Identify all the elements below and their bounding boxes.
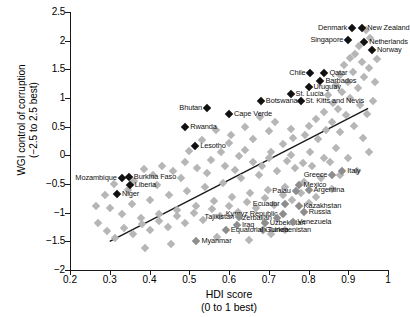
data-point-label: Greece — [304, 171, 328, 179]
data-point-label: Mozambique — [75, 174, 116, 182]
data-point-label: Palau — [272, 187, 290, 195]
plot-area: DenmarkNew ZealandSingaporeNetherlandsNo… — [70, 12, 388, 270]
data-point-label: Norway — [377, 46, 401, 54]
x-tick-label: 0.6 — [214, 274, 244, 285]
data-point-label: Equatorial Guinea — [231, 226, 288, 234]
y-axis-title-line1: WGI control of corruption — [16, 40, 28, 200]
x-tick-label: 1 — [373, 274, 403, 285]
y-tick-label: −1 — [37, 208, 65, 218]
data-point-label: Russia — [309, 208, 331, 216]
data-point-label: Tajikistan — [205, 213, 234, 221]
data-point-label: Botswana — [266, 97, 298, 105]
y-tick-label: 2 — [37, 36, 65, 46]
x-tick-label: 0.7 — [254, 274, 284, 285]
data-point-label: Italy — [347, 167, 360, 175]
data-point-label: Argentina — [314, 186, 345, 194]
data-point-label: Denmark — [318, 24, 347, 32]
x-axis-title-line2: (0 to 1 best) — [70, 301, 388, 314]
data-point-label: Cape Verde — [234, 110, 272, 118]
y-tick-label: 0 — [37, 150, 65, 160]
x-tick-label: 0.9 — [333, 274, 363, 285]
data-point-label: Niger — [122, 190, 139, 198]
x-tick-label: 0.3 — [95, 274, 125, 285]
x-tick-label: 0.8 — [294, 274, 324, 285]
data-point-label: Myanmar — [201, 237, 231, 245]
data-point-label: Rwanda — [190, 123, 217, 131]
y-tick-label: −1.5 — [37, 236, 65, 246]
y-tick-label: 0.5 — [37, 122, 65, 132]
x-axis-title: HDI score (0 to 1 best) — [70, 288, 388, 313]
data-point-label: Liberia — [135, 181, 157, 189]
x-axis-title-line1: HDI score — [70, 288, 388, 301]
y-tick-label: 1 — [37, 93, 65, 103]
data-point-label: Ecuador — [253, 200, 280, 208]
x-tick-label: 0.2 — [55, 274, 85, 285]
x-tick-label: 0.4 — [135, 274, 165, 285]
data-point-label: Bhutan — [179, 104, 202, 112]
data-point-label: New Zealand — [367, 24, 409, 32]
data-point-label: Singapore — [310, 36, 343, 44]
data-point-label: Lesotho — [200, 142, 226, 150]
x-tick-label: 0.5 — [174, 274, 204, 285]
data-point-label: St. Kitts and Nevis — [306, 97, 364, 105]
y-tick-label: 1.5 — [37, 64, 65, 74]
data-point-label: Chile — [289, 69, 305, 77]
y-tick-label: 2.5 — [37, 7, 65, 17]
y-tick-label: −0.5 — [37, 179, 65, 189]
